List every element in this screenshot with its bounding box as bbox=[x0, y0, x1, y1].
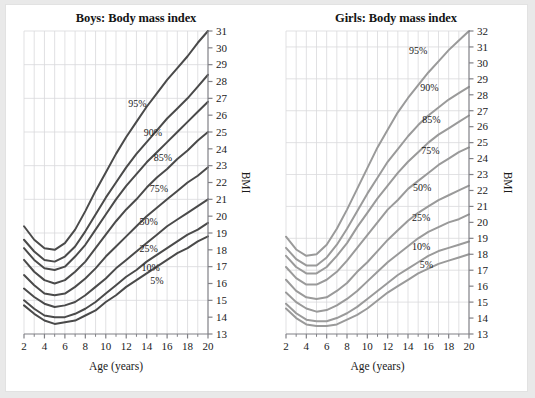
y-tick-label: 23 bbox=[477, 168, 489, 180]
y-tick-label: 19 bbox=[477, 232, 489, 244]
percentile-label-25: 25% bbox=[412, 212, 430, 223]
y-tick-label: 28 bbox=[216, 75, 228, 87]
x-tick-label: 6 bbox=[62, 340, 68, 352]
y-tick-label: 18 bbox=[477, 248, 489, 260]
y-tick-label: 29 bbox=[216, 58, 228, 70]
y-tick-label: 27 bbox=[216, 92, 228, 104]
x-tick-label: 12 bbox=[121, 340, 132, 352]
y-tick-label: 18 bbox=[216, 244, 228, 256]
x-tick-label: 6 bbox=[324, 340, 330, 352]
y-tick-label: 26 bbox=[477, 120, 489, 132]
percentile-label-90: 90% bbox=[144, 127, 162, 138]
girls-chart-svg: 95%90%85%75%50%25%10%5%24681012141618201… bbox=[266, 5, 527, 391]
x-axis: 2468101214161820 bbox=[21, 334, 214, 352]
percentile-label-25: 25% bbox=[140, 243, 158, 254]
chart-pair: Boys: Body mass index 95%90%85%75%50%25%… bbox=[6, 5, 527, 391]
x-tick-label: 20 bbox=[464, 340, 476, 352]
y-tick-label: 13 bbox=[477, 328, 489, 340]
grid-lines bbox=[286, 31, 469, 334]
y-tick-label: 15 bbox=[477, 296, 489, 308]
y-tick-label: 14 bbox=[216, 311, 228, 323]
percentile-label-10: 10% bbox=[142, 262, 160, 273]
y-tick-label: 16 bbox=[216, 277, 228, 289]
y-tick-label: 27 bbox=[477, 105, 489, 117]
x-axis-title: Age (years) bbox=[89, 360, 143, 373]
y-tick-label: 23 bbox=[216, 159, 228, 171]
y-tick-label: 16 bbox=[477, 280, 489, 292]
y-tick-label: 25 bbox=[477, 136, 489, 148]
y-tick-label: 26 bbox=[216, 109, 228, 121]
x-tick-label: 16 bbox=[423, 340, 435, 352]
y-tick-label: 17 bbox=[216, 260, 228, 272]
y-tick-label: 24 bbox=[477, 152, 489, 164]
y-tick-label: 31 bbox=[216, 25, 227, 37]
x-axis: 2468101214161820 bbox=[283, 334, 475, 352]
x-tick-label: 18 bbox=[182, 340, 194, 352]
x-tick-label: 16 bbox=[162, 340, 174, 352]
y-tick-label: 30 bbox=[477, 57, 489, 69]
boys-chart-panel: Boys: Body mass index 95%90%85%75%50%25%… bbox=[6, 5, 266, 391]
y-tick-label: 13 bbox=[216, 328, 228, 340]
y-axis: 1314151617181920212223242526272829303132 bbox=[469, 25, 489, 340]
y-tick-label: 17 bbox=[477, 264, 489, 276]
y-tick-label: 22 bbox=[216, 176, 227, 188]
percentile-label-10: 10% bbox=[412, 241, 430, 252]
percentile-label-90: 90% bbox=[420, 82, 438, 93]
percentile-labels: 95%90%85%75%50%25%10%5% bbox=[128, 98, 172, 286]
y-tick-label: 31 bbox=[477, 41, 488, 53]
y-axis-title: BMI bbox=[240, 172, 252, 194]
y-tick-label: 15 bbox=[216, 294, 228, 306]
percentile-label-5: 5% bbox=[420, 259, 433, 270]
y-tick-label: 25 bbox=[216, 126, 228, 138]
x-tick-label: 4 bbox=[42, 340, 48, 352]
x-tick-label: 2 bbox=[283, 340, 289, 352]
x-tick-label: 10 bbox=[362, 340, 374, 352]
x-tick-label: 10 bbox=[100, 340, 112, 352]
y-tick-label: 22 bbox=[477, 184, 488, 196]
y-tick-label: 20 bbox=[477, 216, 489, 228]
y-tick-label: 29 bbox=[477, 73, 489, 85]
percentile-label-85: 85% bbox=[154, 152, 172, 163]
y-tick-label: 28 bbox=[477, 89, 489, 101]
percentile-label-50: 50% bbox=[140, 216, 158, 227]
x-tick-label: 8 bbox=[83, 340, 89, 352]
chart-page: Boys: Body mass index 95%90%85%75%50%25%… bbox=[6, 5, 527, 391]
y-axis: 13141516171819202122232425262728293031 bbox=[208, 25, 228, 340]
y-axis-title: BMI bbox=[502, 172, 514, 194]
x-tick-label: 18 bbox=[443, 340, 455, 352]
percentile-label-50: 50% bbox=[413, 182, 431, 193]
percentile-label-5: 5% bbox=[150, 275, 163, 286]
percentile-label-95: 95% bbox=[128, 98, 146, 109]
y-tick-label: 21 bbox=[216, 193, 227, 205]
y-tick-label: 32 bbox=[477, 25, 488, 37]
x-tick-label: 14 bbox=[141, 340, 153, 352]
girls-chart-panel: Girls: Body mass index 95%90%85%75%50%25… bbox=[266, 5, 526, 391]
y-tick-label: 20 bbox=[216, 210, 228, 222]
x-tick-label: 20 bbox=[203, 340, 215, 352]
x-tick-label: 14 bbox=[403, 340, 415, 352]
x-tick-label: 2 bbox=[21, 340, 27, 352]
percentile-label-85: 85% bbox=[422, 114, 440, 125]
percentile-label-75: 75% bbox=[421, 145, 439, 156]
percentile-label-95: 95% bbox=[409, 45, 427, 56]
y-tick-label: 21 bbox=[477, 200, 488, 212]
x-tick-label: 8 bbox=[344, 340, 350, 352]
percentile-label-75: 75% bbox=[150, 183, 168, 194]
x-tick-label: 4 bbox=[304, 340, 310, 352]
y-tick-label: 24 bbox=[216, 143, 228, 155]
boys-chart-svg: 95%90%85%75%50%25%10%5%24681012141618201… bbox=[6, 5, 266, 391]
y-tick-label: 19 bbox=[216, 227, 228, 239]
x-axis-title: Age (years) bbox=[351, 360, 405, 373]
y-tick-label: 30 bbox=[216, 42, 228, 54]
x-tick-label: 12 bbox=[382, 340, 393, 352]
y-tick-label: 14 bbox=[477, 312, 489, 324]
